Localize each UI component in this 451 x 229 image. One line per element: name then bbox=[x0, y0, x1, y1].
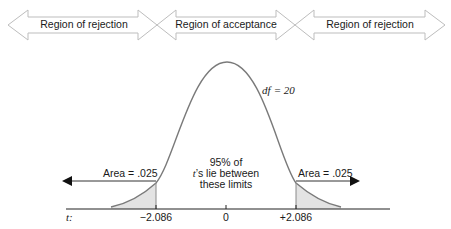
df-symbol: df bbox=[262, 84, 271, 96]
tick-label-right: +2.086 bbox=[280, 211, 312, 223]
axis-variable-label: t: bbox=[66, 211, 73, 223]
center-note-line3: these limits bbox=[186, 179, 266, 190]
df-label: df = 20 bbox=[262, 84, 295, 96]
region-label-left-rejection: Region of rejection bbox=[30, 18, 138, 30]
t-distribution-diagram bbox=[0, 0, 451, 229]
tick-label-center: 0 bbox=[223, 211, 229, 223]
region-label-right-rejection: Region of rejection bbox=[316, 18, 424, 30]
center-note: 95% of t’s lie between these limits bbox=[186, 157, 266, 190]
right-area-label: Area = .025 bbox=[298, 167, 353, 179]
df-value: = 20 bbox=[274, 84, 295, 96]
tick-label-left: −2.086 bbox=[140, 211, 172, 223]
region-label-acceptance: Region of acceptance bbox=[170, 18, 282, 30]
left-area-arrowhead-icon bbox=[62, 176, 72, 186]
left-area-label: Area = .025 bbox=[103, 167, 158, 179]
